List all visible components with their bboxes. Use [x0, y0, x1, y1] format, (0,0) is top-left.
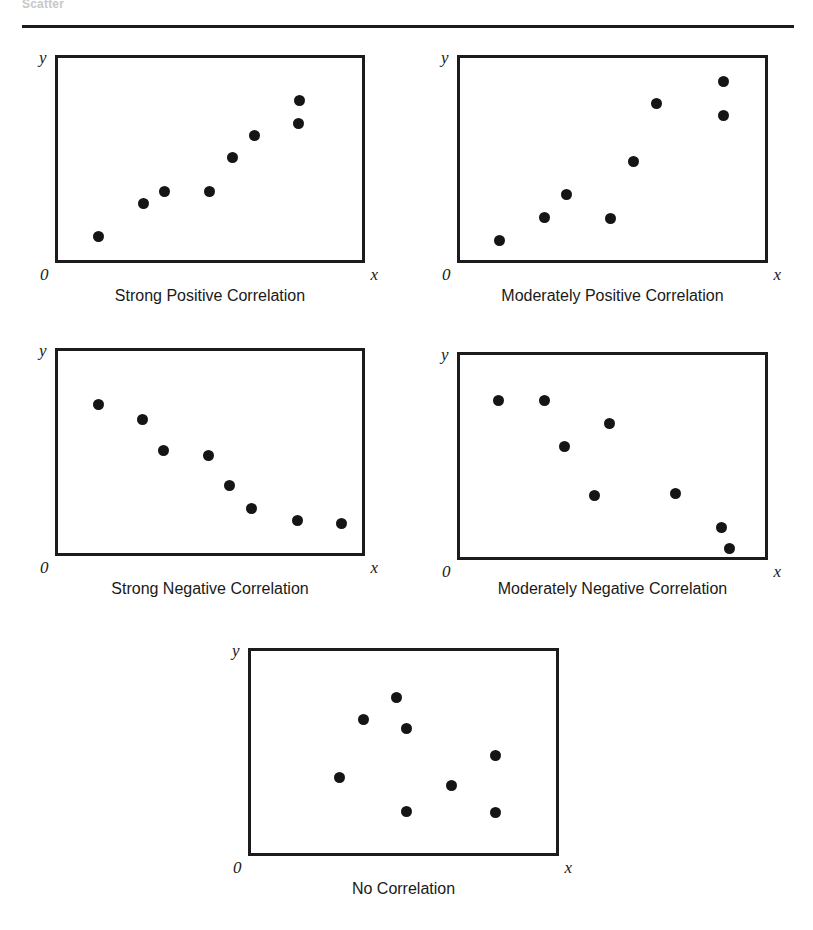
data-point [224, 480, 235, 491]
data-point [493, 395, 504, 406]
scatter-panel-strong-positive: y 0 x Strong Positive Correlation [55, 55, 365, 263]
x-axis-label: x [370, 559, 378, 576]
data-point [724, 543, 735, 554]
data-point [628, 156, 639, 167]
data-point [539, 395, 550, 406]
data-point [716, 522, 727, 533]
header-faint-label: Scatter [22, 0, 64, 9]
x-axis-label: x [773, 563, 781, 580]
origin-label: 0 [442, 266, 451, 283]
y-axis-label: y [232, 642, 240, 659]
data-point [494, 235, 505, 246]
y-axis-label: y [441, 49, 449, 66]
origin-label: 0 [442, 563, 451, 580]
correlation-scatterplot-figure: y 0 x Strong Positive Correlation y 0 x … [0, 30, 813, 930]
data-point [93, 231, 104, 242]
scatter-panel-strong-negative: y 0 x Strong Negative Correlation [55, 348, 365, 556]
data-point [93, 399, 104, 410]
data-point [159, 186, 170, 197]
panel-caption: Strong Positive Correlation [115, 287, 305, 305]
scatter-panel-moderately-negative: y 0 x Moderately Negative Correlation [457, 352, 768, 560]
data-point [718, 76, 729, 87]
origin-label: 0 [40, 266, 49, 283]
data-point [490, 750, 501, 761]
scatter-panel-no-correlation: y 0 x No Correlation [248, 648, 559, 856]
data-point [158, 445, 169, 456]
header-divider [22, 25, 794, 28]
data-point [401, 723, 412, 734]
data-point [605, 213, 616, 224]
data-point [561, 189, 572, 200]
data-point [334, 772, 345, 783]
data-point [203, 450, 214, 461]
y-axis-label: y [39, 342, 47, 359]
x-axis-label: x [564, 859, 572, 876]
panel-caption: Moderately Positive Correlation [501, 287, 723, 305]
data-point [401, 806, 412, 817]
page-header: Scatter [0, 0, 813, 30]
panel-caption: No Correlation [352, 880, 455, 898]
plot-area [248, 648, 559, 856]
origin-label: 0 [233, 859, 242, 876]
data-point [539, 212, 550, 223]
x-axis-label: x [370, 266, 378, 283]
x-axis-label: x [773, 266, 781, 283]
data-point [358, 714, 369, 725]
scatter-panel-moderately-positive: y 0 x Moderately Positive Correlation [457, 55, 768, 263]
data-point [559, 441, 570, 452]
data-point [718, 110, 729, 121]
panel-caption: Moderately Negative Correlation [498, 580, 727, 598]
y-axis-label: y [39, 49, 47, 66]
panel-caption: Strong Negative Correlation [111, 580, 308, 598]
y-axis-label: y [441, 346, 449, 363]
data-point [227, 152, 238, 163]
data-point [294, 95, 305, 106]
data-point [249, 130, 260, 141]
data-point [138, 198, 149, 209]
origin-label: 0 [40, 559, 49, 576]
